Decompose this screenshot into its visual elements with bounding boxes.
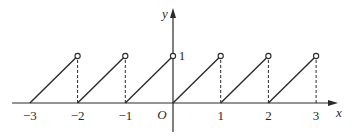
open-point-marker — [123, 53, 128, 58]
x-axis-label: x — [335, 105, 342, 120]
y-axis-arrow-icon — [170, 8, 176, 18]
x-tick-label: 2 — [265, 108, 272, 123]
sawtooth-segment — [173, 58, 219, 103]
sawtooth-segment — [221, 58, 267, 103]
open-point-marker — [266, 53, 271, 58]
y-axis-label: y — [160, 6, 168, 21]
x-tick-label: −3 — [23, 108, 37, 123]
sawtooth-graph: xyO−3−2−11231 — [0, 0, 358, 139]
y-tick-label: 1 — [179, 48, 186, 63]
sawtooth-segment — [268, 58, 314, 103]
sawtooth-segment — [78, 58, 124, 103]
open-point-marker — [75, 53, 80, 58]
sawtooth-segment — [125, 58, 171, 103]
x-tick-label: −2 — [71, 108, 85, 123]
open-point-marker — [170, 53, 175, 58]
x-tick-label: 3 — [313, 108, 320, 123]
x-tick-label: 1 — [217, 108, 224, 123]
open-point-marker — [314, 53, 319, 58]
plot-canvas: xyO−3−2−11231 — [0, 0, 358, 139]
origin-label: O — [157, 107, 167, 122]
sawtooth-segment — [30, 58, 76, 103]
open-point-marker — [218, 53, 223, 58]
x-tick-label: −1 — [118, 108, 132, 123]
